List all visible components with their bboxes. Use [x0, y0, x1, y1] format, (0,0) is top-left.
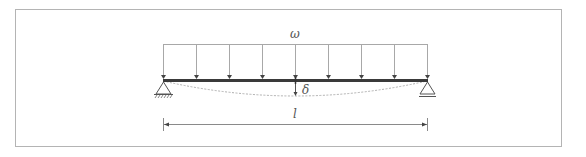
beam-diagram: ω δ l	[0, 0, 586, 157]
deflection-label: δ	[302, 84, 309, 96]
load-label: ω	[290, 28, 300, 40]
beam-diagram-svg	[0, 0, 586, 157]
diagram-frame	[16, 10, 562, 147]
length-label: l	[293, 108, 297, 120]
